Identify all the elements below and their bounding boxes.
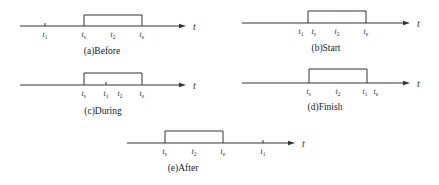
axis-label: t (302, 138, 305, 149)
panel-caption: (b)Start (311, 43, 340, 54)
interval-box (308, 11, 366, 23)
panel-eafter: ttst2tet1(e)After (127, 131, 305, 174)
time-point-label-ts: ts (82, 89, 86, 99)
panel-caption: (e)After (168, 163, 199, 174)
panel-abefore: tt1tst2te(a)Before (20, 15, 196, 57)
time-point-label-t1: t1 (363, 87, 368, 97)
time-point-label-t2: t2 (336, 87, 341, 97)
axis-arrow-icon (403, 21, 410, 25)
time-point-label-te: te (140, 89, 145, 99)
time-point-label-t1: t1 (43, 30, 48, 40)
axis-arrow-icon (288, 141, 295, 145)
panel-caption: (c)During (84, 106, 122, 117)
time-point-label-te: te (374, 87, 379, 97)
interval-box (84, 15, 142, 26)
time-point-label-te: te (140, 30, 145, 40)
axis-arrow-icon (179, 83, 186, 87)
axis-arrow-icon (403, 81, 410, 85)
panel-caption: (a)Before (84, 46, 120, 57)
interval-box (165, 131, 223, 143)
time-point-label-t2: t2 (192, 147, 197, 157)
time-point-label-te: te (221, 147, 226, 157)
axis-label: t (417, 78, 420, 89)
panel-caption: (d)Finish (308, 102, 343, 113)
panel-dfinish: ttst2t1te(d)Finish (242, 69, 420, 113)
temporal-relations-diagram: tt1tst2te(a)Beforett1tst2te(b)Startttst1… (0, 0, 439, 185)
time-point-label-t1: t1 (104, 89, 109, 99)
axis-label: t (417, 18, 420, 29)
time-point-label-t2: t2 (118, 89, 123, 99)
time-point-label-t1: t1 (299, 27, 304, 37)
panel-bstart: tt1tst2te(b)Start (242, 11, 420, 54)
axis-label: t (193, 21, 196, 32)
axis-label: t (193, 80, 196, 91)
time-point-label-ts: ts (163, 147, 167, 157)
interval-box (309, 69, 367, 83)
time-point-label-t2: t2 (111, 30, 116, 40)
time-point-label-ts: ts (312, 27, 316, 37)
panel-cduring: ttst1t2te(c)During (20, 73, 196, 117)
time-point-label-t1: t1 (261, 147, 266, 157)
time-point-label-t2: t2 (335, 27, 340, 37)
axis-arrow-icon (179, 24, 186, 28)
interval-box (84, 73, 142, 85)
time-point-label-ts: ts (307, 87, 311, 97)
time-point-label-ts: ts (82, 30, 86, 40)
time-point-label-te: te (364, 27, 369, 37)
